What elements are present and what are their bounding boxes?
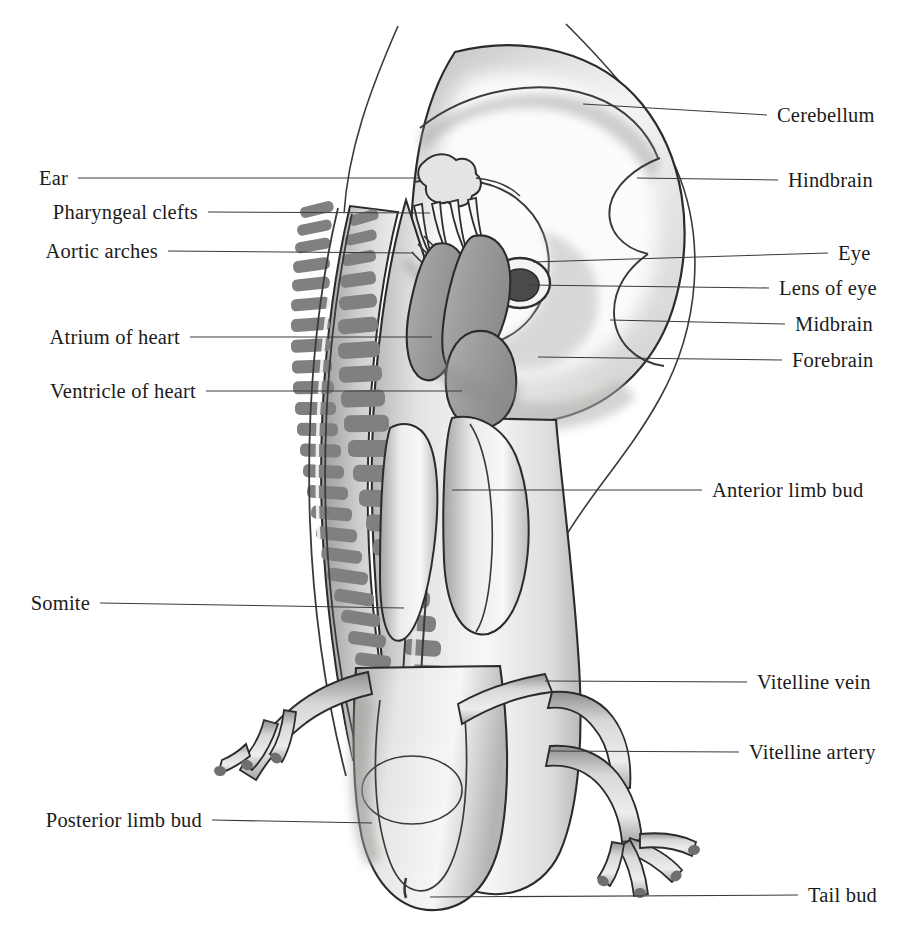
label-eye: Eye: [838, 243, 870, 264]
label-somite: Somite: [31, 593, 90, 614]
embryo-diagram: EarPharyngeal cleftsAortic archesAtrium …: [0, 0, 910, 935]
label-posterior-limb-bud: Posterior limb bud: [46, 810, 202, 831]
leader-posterior-limb-bud: [212, 820, 372, 823]
label-midbrain: Midbrain: [795, 314, 873, 335]
label-vitelline-vein: Vitelline vein: [757, 672, 871, 693]
label-tail-bud: Tail bud: [808, 885, 877, 906]
label-aortic-arches: Aortic arches: [46, 241, 158, 262]
embryo-illustration: [0, 0, 910, 935]
label-cerebellum: Cerebellum: [777, 105, 875, 126]
label-pharyngeal-clefts: Pharyngeal clefts: [53, 202, 198, 223]
left-vessel-digits: [218, 710, 296, 774]
tail-tip-cord: [405, 878, 407, 898]
label-anterior-limb-bud: Anterior limb bud: [712, 480, 863, 501]
label-vitelline-artery: Vitelline artery: [749, 742, 876, 763]
vitelline-artery-branches: [598, 833, 696, 896]
label-ear: Ear: [39, 168, 68, 189]
label-lens-of-eye: Lens of eye: [779, 278, 877, 299]
label-ventricle-of-heart: Ventricle of heart: [50, 381, 196, 402]
label-forebrain: Forebrain: [792, 350, 874, 371]
label-hindbrain: Hindbrain: [788, 170, 873, 191]
leader-tail-bud: [430, 895, 798, 897]
label-atrium-of-heart: Atrium of heart: [49, 327, 180, 348]
